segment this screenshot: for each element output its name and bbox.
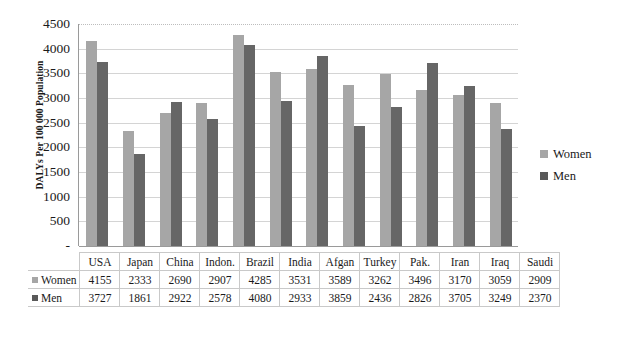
y-axis-tick-label: 1500 xyxy=(10,165,70,179)
table-cell: 2933 xyxy=(280,289,320,307)
bar-men-china xyxy=(171,102,182,246)
table-column-header: India xyxy=(280,253,320,271)
table-cell: 3496 xyxy=(400,271,440,289)
y-axis-tick-label: - xyxy=(10,239,70,253)
table-cell: 2909 xyxy=(520,271,560,289)
bar-women-afgan xyxy=(306,69,317,246)
bar-group-usa xyxy=(79,24,116,246)
table-column-header: Indon. xyxy=(200,253,240,271)
chart-legend: WomenMen xyxy=(540,143,592,187)
bar-men-saudi xyxy=(501,129,512,246)
bar-women-turkey xyxy=(343,85,354,246)
bar-group-turkey xyxy=(336,24,373,246)
series-swatch-icon xyxy=(32,277,38,283)
y-axis-tick-label: 3500 xyxy=(10,67,70,81)
bar-group-saudi xyxy=(482,24,519,246)
plot-area xyxy=(78,24,518,246)
table-column-header: Pak. xyxy=(400,253,440,271)
bar-women-pak xyxy=(380,74,391,246)
legend-entry-men[interactable]: Men xyxy=(540,165,592,187)
bar-group-indon xyxy=(189,24,226,246)
series-swatch-icon xyxy=(32,295,38,301)
table-cell: 3705 xyxy=(440,289,480,307)
table-column-header: Japan xyxy=(120,253,160,271)
bar-women-india xyxy=(270,72,281,246)
bar-men-iran xyxy=(427,63,438,246)
table-cell: 3531 xyxy=(280,271,320,289)
legend-swatch-icon xyxy=(540,172,548,180)
bar-chart: DALYs Per 100 000 Population -5001000150… xyxy=(0,0,622,338)
bar-group-china xyxy=(152,24,189,246)
table-cell: 3262 xyxy=(360,271,400,289)
bar-women-china xyxy=(160,113,171,246)
bar-men-afgan xyxy=(317,56,328,246)
bar-women-indon xyxy=(196,103,207,246)
bar-men-indon xyxy=(207,119,218,246)
table-column-header: USA xyxy=(80,253,120,271)
table-column-header: Brazil xyxy=(240,253,280,271)
bar-men-brazil xyxy=(244,45,255,246)
table-cell: 3249 xyxy=(480,289,520,307)
legend-label: Women xyxy=(553,147,592,162)
table-cell: 2907 xyxy=(200,271,240,289)
bar-group-japan xyxy=(116,24,153,246)
bar-group-brazil xyxy=(226,24,263,246)
bar-group-india xyxy=(262,24,299,246)
table-corner-cell xyxy=(28,253,80,271)
bar-women-saudi xyxy=(490,103,501,247)
y-axis-tick-label: 2000 xyxy=(10,141,70,155)
bar-men-usa xyxy=(97,62,108,246)
table-cell: 2436 xyxy=(360,289,400,307)
bar-group-iraq xyxy=(446,24,483,246)
y-axis-tick-label: 1000 xyxy=(10,190,70,204)
table-cell: 3727 xyxy=(80,289,120,307)
bar-women-usa xyxy=(86,41,97,246)
table-column-header: Iraq xyxy=(480,253,520,271)
bar-men-turkey xyxy=(354,126,365,246)
y-axis-tick-label: 2500 xyxy=(10,116,70,130)
data-table: USAJapanChinaIndon.BrazilIndiaAfganTurke… xyxy=(28,252,560,307)
table-row: Women41552333269029074285353135893262349… xyxy=(28,271,560,289)
table-column-header: Turkey xyxy=(360,253,400,271)
bar-group-afgan xyxy=(299,24,336,246)
bar-series-layer xyxy=(79,24,518,246)
y-axis-tick-label: 4000 xyxy=(10,42,70,56)
bar-women-iraq xyxy=(453,95,464,246)
table-cell: 2690 xyxy=(160,271,200,289)
table-cell: 4155 xyxy=(80,271,120,289)
y-axis-tick-label: 3000 xyxy=(10,91,70,105)
bar-group-pak xyxy=(372,24,409,246)
gridline xyxy=(79,246,518,247)
legend-entry-women[interactable]: Women xyxy=(540,143,592,165)
table-cell: 4080 xyxy=(240,289,280,307)
bar-men-japan xyxy=(134,154,145,246)
table-cell: 2333 xyxy=(120,271,160,289)
bar-women-iran xyxy=(416,90,427,246)
bar-group-iran xyxy=(409,24,446,246)
table-cell: 2826 xyxy=(400,289,440,307)
table-column-header: Iran xyxy=(440,253,480,271)
table-cell: 3859 xyxy=(320,289,360,307)
table-cell: 2370 xyxy=(520,289,560,307)
legend-swatch-icon xyxy=(540,150,548,158)
table-column-header: China xyxy=(160,253,200,271)
table-cell: 3059 xyxy=(480,271,520,289)
table-cell: 1861 xyxy=(120,289,160,307)
table-series-label: Men xyxy=(28,289,80,307)
bar-men-iraq xyxy=(464,86,475,246)
bar-women-brazil xyxy=(233,35,244,246)
table-column-header: Saudi xyxy=(520,253,560,271)
table-cell: 2578 xyxy=(200,289,240,307)
table-header-row: USAJapanChinaIndon.BrazilIndiaAfganTurke… xyxy=(28,253,560,271)
y-axis-tick-label: 4500 xyxy=(10,17,70,31)
table-cell: 3170 xyxy=(440,271,480,289)
table-cell: 2922 xyxy=(160,289,200,307)
table-row: Men3727186129222578408029333859243628263… xyxy=(28,289,560,307)
bar-women-japan xyxy=(123,131,134,246)
bar-men-india xyxy=(281,101,292,246)
bar-men-pak xyxy=(391,107,402,246)
table-column-header: Afgan xyxy=(320,253,360,271)
legend-label: Men xyxy=(553,169,576,184)
y-axis-tick-label: 500 xyxy=(10,215,70,229)
table-series-label: Women xyxy=(28,271,80,289)
